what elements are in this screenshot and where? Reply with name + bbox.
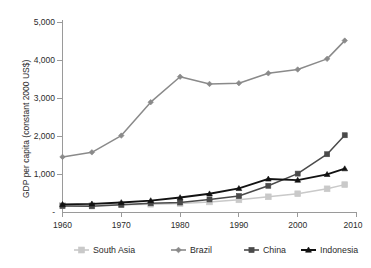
data-point: [342, 182, 348, 188]
legend-swatch-marker: [79, 247, 85, 253]
data-series-layer: [60, 38, 348, 209]
data-point: [295, 191, 301, 197]
y-tick-label-zero: -: [52, 207, 55, 217]
x-axis-ticks: 1960 1970 1980 1990 2000 2010: [53, 212, 363, 230]
x-tick-label-1970: 1970: [112, 220, 131, 230]
data-point: [266, 71, 272, 77]
legend-label: China: [263, 245, 286, 255]
gdp-per-capita-line-chart: GDP per capita (constant 2000 US$) 5,000…: [0, 0, 371, 268]
y-tick-label-1000: 1,000: [34, 169, 56, 179]
legend-item-brazil[interactable]: Brazil: [171, 245, 212, 255]
legend-label: Indonesia: [320, 245, 358, 255]
data-point: [295, 67, 301, 73]
data-point: [207, 81, 213, 87]
y-axis-ticks: 5,000 4,000 3,000 2,000 1,000 -: [34, 17, 62, 217]
x-tick-label-2010: 2010: [344, 220, 363, 230]
legend-swatch-marker: [249, 247, 254, 252]
data-point: [295, 171, 300, 176]
legend-label: Brazil: [190, 245, 212, 255]
y-tick-label-3000: 3,000: [34, 93, 56, 103]
legend-swatch-marker: [176, 247, 182, 253]
legend-item-indonesia[interactable]: Indonesia: [301, 245, 358, 255]
legend-item-china[interactable]: China: [244, 245, 286, 255]
x-tick-label-1960: 1960: [53, 220, 72, 230]
x-tick-label-1990: 1990: [229, 220, 248, 230]
legend-item-south-asia[interactable]: South Asia: [74, 245, 135, 255]
data-point: [236, 80, 242, 86]
data-point: [207, 197, 212, 202]
series-brazil: [60, 38, 348, 160]
data-point: [60, 154, 66, 160]
data-point: [236, 194, 241, 199]
y-tick-label-2000: 2,000: [34, 131, 56, 141]
y-tick-label-4000: 4,000: [34, 55, 56, 65]
data-point: [324, 186, 330, 192]
y-axis-title: GDP per capita (constant 2000 US$): [21, 60, 31, 198]
data-point: [342, 133, 347, 138]
data-point: [325, 152, 330, 157]
x-tick-label-2000: 2000: [288, 220, 307, 230]
series-china: [60, 133, 347, 209]
data-point: [266, 183, 271, 188]
data-point: [265, 194, 271, 200]
data-point: [178, 200, 183, 205]
x-tick-label-1980: 1980: [171, 220, 190, 230]
chart-plot-area: GDP per capita (constant 2000 US$) 5,000…: [0, 0, 371, 268]
legend-label: South Asia: [93, 245, 135, 255]
y-tick-label-5000: 5,000: [34, 17, 56, 27]
data-point: [342, 166, 348, 171]
chart-legend: South AsiaBrazilChinaIndonesia: [74, 245, 358, 255]
